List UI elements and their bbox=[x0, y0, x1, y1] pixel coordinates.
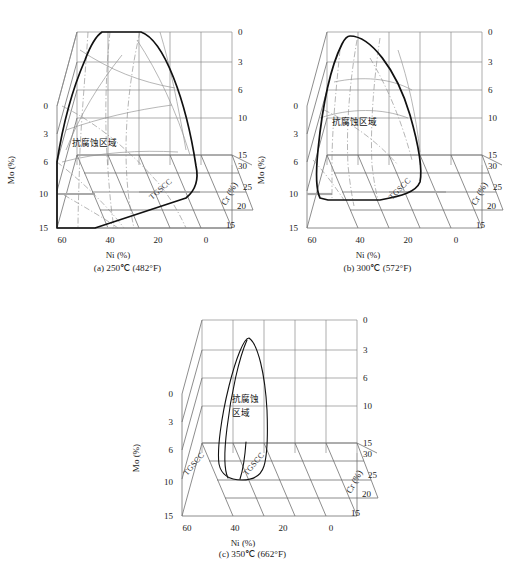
mo-tick-6: 6 bbox=[294, 157, 299, 167]
mo-tick-15: 15 bbox=[289, 223, 299, 233]
tgscc-label-a: TGSCC bbox=[147, 177, 174, 202]
mo-tick-10: 10 bbox=[39, 189, 49, 199]
mo-tick-10: 10 bbox=[289, 189, 299, 199]
mo-right-tick-0: 0 bbox=[363, 315, 368, 325]
cr-tick-15: 15 bbox=[476, 220, 486, 230]
mo-right-tick-10: 10 bbox=[363, 401, 373, 411]
chart-b-svg: 0 3 6 10 15 Mo (%) 0 3 6 10 15 30 25 20 … bbox=[250, 10, 505, 260]
ni-tick-60: 60 bbox=[308, 235, 318, 245]
ni-tick-20: 20 bbox=[279, 523, 289, 533]
mo-right-tick-6: 6 bbox=[363, 373, 368, 383]
chart-c-svg: 0 3 6 10 15 Mo (%) 0 3 6 10 15 30 25 20 … bbox=[125, 298, 380, 548]
ni-tick-0: 0 bbox=[454, 235, 459, 245]
mo-right-tick-3: 3 bbox=[238, 57, 243, 67]
chart-a-svg: 0 3 6 10 15 Mo (%) 0 3 6 10 15 30 25 20 … bbox=[0, 10, 255, 260]
resistant-region-label-c-line2: 区域 bbox=[232, 407, 250, 418]
ni-axis-title-b: Ni (%) bbox=[356, 250, 381, 260]
cr-tick-25: 25 bbox=[493, 182, 503, 192]
resistant-region-label-a: 抗腐蚀区域 bbox=[72, 137, 117, 148]
mo-axis-title-c: Mo (%) bbox=[131, 444, 141, 472]
mo-tick-15: 15 bbox=[39, 223, 49, 233]
ni-axis-title-a: Ni (%) bbox=[106, 250, 131, 260]
mo-right-axis-ticks-b: 0 3 6 10 15 bbox=[488, 27, 498, 160]
mo-right-tick-3: 3 bbox=[488, 57, 493, 67]
mo-tick-0: 0 bbox=[294, 101, 299, 111]
caption-panel-c: (c) 350℃ (662°F) bbox=[125, 548, 380, 559]
mo-tick-0: 0 bbox=[44, 101, 49, 111]
mo-right-tick-15: 15 bbox=[238, 150, 248, 160]
ni-axis-ticks-b: 60 40 20 0 bbox=[308, 235, 459, 245]
ni-tick-60: 60 bbox=[58, 235, 68, 245]
mo-right-axis-ticks-a: 0 3 6 10 15 bbox=[238, 27, 248, 160]
chart-panel-b: 0 3 6 10 15 Mo (%) 0 3 6 10 15 30 25 20 … bbox=[250, 10, 505, 260]
resistant-region-label-b: 抗腐蚀区域 bbox=[332, 116, 377, 127]
mo-right-tick-6: 6 bbox=[488, 85, 493, 95]
cr-tick-30: 30 bbox=[363, 449, 373, 459]
mo-tick-3: 3 bbox=[294, 129, 299, 139]
ni-tick-0: 0 bbox=[204, 235, 209, 245]
ni-tick-60: 60 bbox=[183, 523, 193, 533]
cr-tick-20: 20 bbox=[487, 201, 497, 211]
mo-tick-3: 3 bbox=[169, 417, 174, 427]
chart-panel-c: 0 3 6 10 15 Mo (%) 0 3 6 10 15 30 25 20 … bbox=[125, 298, 380, 548]
mo-right-tick-10: 10 bbox=[238, 113, 248, 123]
cropped-top-text bbox=[2, 0, 122, 7]
mo-axis-ticks-c: 0 3 6 10 15 bbox=[164, 389, 174, 521]
figure-page: 0 3 6 10 15 Mo (%) 0 3 6 10 15 30 25 20 … bbox=[0, 0, 505, 574]
tgscc-label-b: TGSCC bbox=[387, 176, 413, 202]
mo-tick-3: 3 bbox=[44, 129, 49, 139]
ni-tick-40: 40 bbox=[356, 235, 366, 245]
mo-axis-title-a: Mo (%) bbox=[6, 156, 16, 184]
cr-tick-20: 20 bbox=[237, 201, 247, 211]
mo-right-tick-0: 0 bbox=[238, 27, 243, 37]
mo-tick-6: 6 bbox=[169, 445, 174, 455]
mo-tick-15: 15 bbox=[164, 511, 174, 521]
ni-tick-0: 0 bbox=[329, 523, 334, 533]
mo-axis-title-b: Mo (%) bbox=[256, 156, 266, 184]
cr-tick-15: 15 bbox=[226, 220, 236, 230]
cr-tick-30: 30 bbox=[238, 161, 248, 171]
resistant-region-label-c-line1: 抗腐蚀 bbox=[232, 393, 259, 404]
ni-axis-ticks-c: 60 40 20 0 bbox=[183, 523, 334, 533]
caption-panel-a: (a) 250℃ (482°F) bbox=[0, 262, 255, 273]
mo-right-tick-15: 15 bbox=[488, 150, 498, 160]
mo-right-axis-ticks-c: 0 3 6 10 15 bbox=[363, 315, 373, 448]
cr-tick-30: 30 bbox=[488, 161, 498, 171]
mo-tick-6: 6 bbox=[44, 157, 49, 167]
cr-tick-20: 20 bbox=[362, 489, 372, 499]
ni-tick-20: 20 bbox=[154, 235, 164, 245]
mo-axis-ticks-a: 0 3 6 10 15 bbox=[39, 101, 49, 233]
chart-panel-a: 0 3 6 10 15 Mo (%) 0 3 6 10 15 30 25 20 … bbox=[0, 10, 255, 260]
ni-axis-title-c: Ni (%) bbox=[231, 538, 256, 548]
mo-right-tick-3: 3 bbox=[363, 345, 368, 355]
resistant-region-outline-a bbox=[57, 32, 197, 228]
ni-tick-40: 40 bbox=[106, 235, 116, 245]
back-wall-grid-c bbox=[202, 320, 357, 453]
ni-tick-20: 20 bbox=[404, 235, 414, 245]
left-wall-grid-c bbox=[182, 320, 202, 516]
ni-axis-ticks-a: 60 40 20 0 bbox=[58, 235, 209, 245]
ni-tick-40: 40 bbox=[231, 523, 241, 533]
mo-right-tick-6: 6 bbox=[238, 85, 243, 95]
caption-panel-b: (b) 300℃ (572°F) bbox=[250, 262, 505, 273]
cr-tick-25: 25 bbox=[368, 470, 378, 480]
mo-right-tick-0: 0 bbox=[488, 27, 493, 37]
mo-tick-10: 10 bbox=[164, 477, 174, 487]
left-wall-grid-a bbox=[57, 32, 77, 228]
mo-right-tick-15: 15 bbox=[363, 438, 373, 448]
mo-right-tick-10: 10 bbox=[488, 113, 498, 123]
mo-axis-ticks-b: 0 3 6 10 15 bbox=[289, 101, 299, 233]
mo-tick-0: 0 bbox=[169, 389, 174, 399]
cr-tick-15: 15 bbox=[351, 508, 361, 518]
